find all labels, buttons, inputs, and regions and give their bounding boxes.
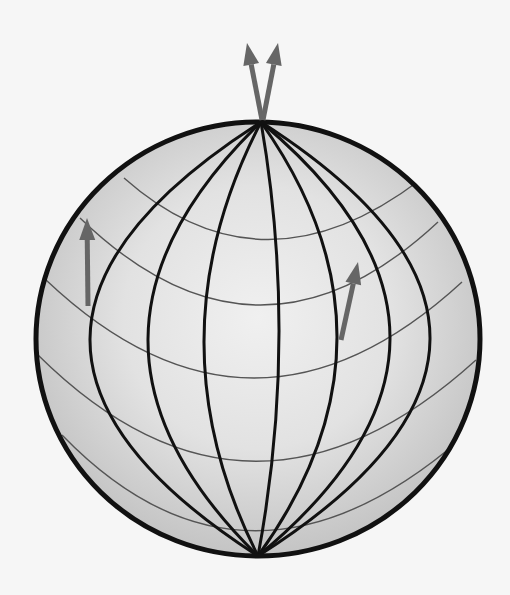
globe-diagram — [0, 0, 510, 595]
north-pole-arrow-right-icon — [263, 43, 282, 120]
north-pole-arrow-left-icon — [243, 43, 262, 120]
diagram-canvas — [0, 0, 510, 595]
